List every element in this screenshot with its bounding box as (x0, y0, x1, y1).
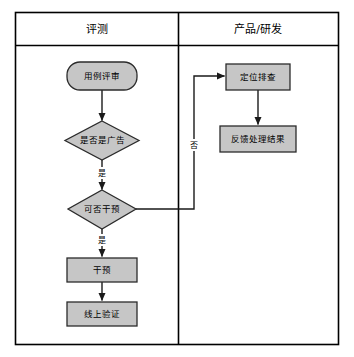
edge-label-can-intervene-yes: 是 (98, 236, 106, 245)
flowchart-canvas: 评测 产品/研发 是 是 (0, 0, 354, 357)
node-locate-triage[interactable]: 定位排查 (226, 64, 290, 90)
node-locate-triage-label: 定位排查 (240, 72, 276, 82)
node-can-intervene-label: 可否干预 (84, 204, 120, 214)
node-online-verify[interactable]: 线上验证 (67, 302, 137, 326)
node-online-verify-label: 线上验证 (84, 309, 120, 319)
node-is-ad-label: 是否是广告 (80, 135, 125, 145)
lane-header-product-rd: 产品/研发 (234, 22, 282, 36)
node-intervene-label: 干预 (93, 265, 111, 275)
node-feedback-result[interactable]: 反馈处理结果 (220, 126, 296, 152)
edge-can-intervene-to-intervene: 是 (94, 229, 110, 257)
node-is-ad[interactable]: 是否是广告 (65, 121, 139, 160)
lane-title-product-rd: 产品/研发 (234, 22, 282, 36)
node-can-intervene[interactable]: 可否干预 (68, 190, 136, 229)
edge-is-ad-to-can-intervene: 是 (94, 160, 110, 190)
node-feedback-result-label: 反馈处理结果 (231, 134, 285, 144)
node-case-review-label: 用例评审 (84, 71, 120, 81)
lane-title-evaluation: 评测 (86, 23, 108, 36)
lane-header-evaluation: 评测 (86, 23, 108, 36)
node-intervene[interactable]: 干预 (67, 258, 137, 282)
swimlane-frame (16, 13, 339, 345)
node-case-review[interactable]: 用例评审 (67, 62, 137, 90)
edge-can-intervene-to-locate: 否 (136, 76, 225, 209)
edge-label-is-ad-yes: 是 (98, 169, 106, 178)
swimlane-flowchart: 评测 产品/研发 是 是 (0, 0, 354, 357)
edge-label-can-intervene-no: 否 (190, 141, 198, 150)
